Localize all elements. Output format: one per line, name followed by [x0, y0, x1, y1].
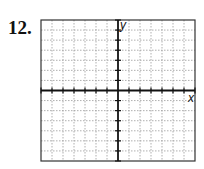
- x-axis-label: x: [187, 91, 195, 105]
- axes: [41, 20, 195, 161]
- coordinate-grid: x y: [0, 0, 204, 169]
- y-axis-label: y: [119, 18, 127, 32]
